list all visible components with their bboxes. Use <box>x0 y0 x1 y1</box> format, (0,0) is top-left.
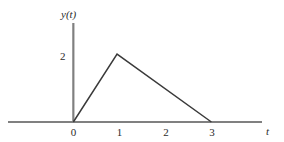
x-axis-label: t <box>266 126 269 137</box>
y-tick-label-2: 2 <box>60 51 66 62</box>
signal-plot-figure: y(t) t 2 0 1 2 3 <box>0 0 284 142</box>
plot-canvas <box>0 0 284 142</box>
x-tick-label-3: 3 <box>209 127 215 138</box>
y-axis-label: y(t) <box>61 9 76 20</box>
signal-curve <box>73 54 211 122</box>
x-tick-label-1: 1 <box>117 127 123 138</box>
x-tick-label-2: 2 <box>163 127 169 138</box>
x-tick-label-0: 0 <box>71 127 77 138</box>
